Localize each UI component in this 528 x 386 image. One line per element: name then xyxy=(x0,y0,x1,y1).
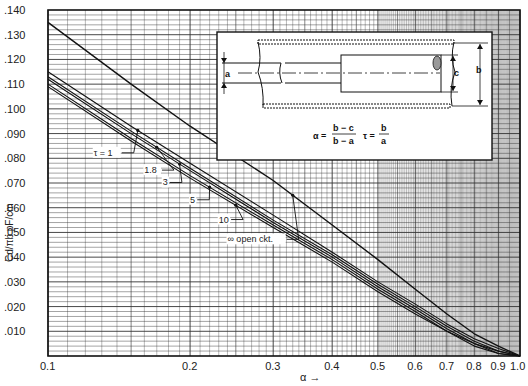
dim-label-c: c xyxy=(454,68,459,78)
dim-label-b: b xyxy=(476,65,482,75)
x-tick-label: 1.0 xyxy=(510,360,525,372)
y-tick-label: .020 xyxy=(4,301,25,313)
curve-annotation-label: τ = 1 xyxy=(94,148,113,158)
y-tick-label: .130 xyxy=(4,29,25,41)
curve-annotation-label: 1.8 xyxy=(144,165,157,175)
x-axis-ticks: 0.10.20.30.40.50.60.70.80.91.0 xyxy=(40,360,525,372)
y-tick-label: .030 xyxy=(4,276,25,288)
leader-dot xyxy=(178,162,181,165)
formula-tau-num: b xyxy=(381,123,387,133)
formula-alpha-den: b − a xyxy=(333,136,355,146)
y-tick-label: .100 xyxy=(4,103,25,115)
curve-annotation-label: 10 xyxy=(219,215,229,225)
x-tick-label: 0.8 xyxy=(466,360,481,372)
y-tick-label: .010 xyxy=(4,325,25,337)
curve-annotation-label: 3 xyxy=(163,177,168,187)
leader-dot xyxy=(155,146,158,149)
x-tick-label: 0.2 xyxy=(182,360,197,372)
coax-inset-diagram: a c b α = b − c b − a τ = b a xyxy=(217,32,492,160)
x-tick-label: 0.7 xyxy=(439,360,454,372)
x-tick-label: 0.9 xyxy=(490,360,505,372)
y-tick-label: .140 xyxy=(4,4,25,16)
leader-dot xyxy=(208,186,211,189)
curve-annotation-label: ∞ open ckt. xyxy=(227,234,272,244)
leader-dot xyxy=(291,194,294,197)
x-tick-label: 0.4 xyxy=(324,360,339,372)
y-tick-label: .090 xyxy=(4,128,25,140)
leader-dot xyxy=(234,204,237,207)
x-tick-label: 0.5 xyxy=(370,360,385,372)
capacitance-chart: τ = 11.83510∞ open ckt. .010.020.030.040… xyxy=(0,0,528,386)
y-tick-label: .070 xyxy=(4,177,25,189)
y-axis-label: Cd/πb pF/cm xyxy=(4,203,15,262)
y-tick-label: .080 xyxy=(4,152,25,164)
x-tick-label: 0.3 xyxy=(265,360,280,372)
curve-annotation-label: 5 xyxy=(190,195,195,205)
x-tick-label: 0.1 xyxy=(40,360,55,372)
y-tick-label: .120 xyxy=(4,53,25,65)
leader-dot xyxy=(136,129,139,132)
y-axis-ticks: .010.020.030.040.050.060.070.080.090.100… xyxy=(4,4,25,337)
formula-tau-lhs: τ = xyxy=(363,131,375,141)
formula-alpha-num: b − c xyxy=(333,123,354,133)
formula-alpha-lhs: α = xyxy=(313,131,326,141)
y-tick-label: .110 xyxy=(4,78,25,90)
x-tick-label: 0.6 xyxy=(407,360,422,372)
x-axis-label: α → xyxy=(300,371,320,383)
